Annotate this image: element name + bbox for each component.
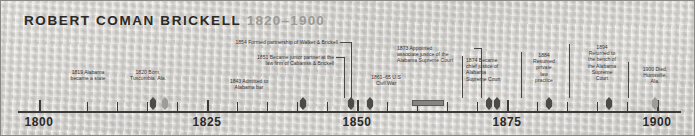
- page-title: ROBERT COMAN BRICKELL 1820–1900: [24, 13, 325, 28]
- event-marker-junior-partner: [348, 97, 355, 110]
- axis-tick-1855: [387, 102, 388, 111]
- event-label-civil-war: 1861–65 U.S Civil War: [360, 74, 412, 86]
- event-label-private-law-practice: 1884 Resumed private law practice: [524, 52, 564, 83]
- event-marker-private-law-practice: [546, 97, 553, 110]
- leader-line-partnership-vertical: [351, 42, 352, 98]
- axis-label-1900: 1900: [642, 115, 671, 129]
- event-label-alabama-statehood: 1819 Alabama became a state: [60, 69, 116, 81]
- axis-tick-1875: [507, 100, 509, 111]
- event-marker-admitted-to-bar: [300, 97, 307, 110]
- event-marker-alabama-statehood: [150, 97, 157, 110]
- event-label-admitted-to-bar: 1843 Admitted to Alabama bar: [213, 78, 285, 90]
- axis-label-1875: 1875: [492, 115, 521, 129]
- event-marker-associate-justice: [486, 97, 493, 110]
- axis-tick-1815: [147, 102, 148, 111]
- divider-line-private-practice: [521, 52, 522, 98]
- axis-tick-1845: [327, 102, 328, 111]
- event-label-chief-justice: 1874 Became chief justice of Alabama Sup…: [466, 57, 520, 82]
- leader-line-junior-partner-vertical: [344, 57, 345, 98]
- axis-label-1850: 1850: [342, 115, 371, 129]
- event-marker-partnership-walker-brickell: [367, 97, 374, 110]
- leader-line-associate-justice-vertical: [481, 48, 482, 98]
- axis-tick-1805: [87, 102, 88, 111]
- event-marker-born-tuscumbia: [162, 97, 169, 110]
- axis-tick-1800: [39, 100, 41, 111]
- title-life-years: 1820–1900: [247, 13, 325, 28]
- axis-tick-1865: [447, 102, 448, 111]
- timeline-axis: 1800 1825 1850 1875 1900: [0, 96, 695, 136]
- event-marker-returned-to-bench: [606, 97, 613, 110]
- axis-tick-1890: [597, 102, 598, 111]
- axis-tick-1870: [477, 102, 478, 111]
- axis-tick-1850: [357, 100, 359, 111]
- event-label-junior-partner: 1851 Became junior partner at the law fi…: [178, 54, 334, 66]
- axis-tick-1880: [537, 102, 538, 111]
- event-label-returned-to-bench: 1894 Returned to the bench of the Alabam…: [578, 44, 626, 81]
- title-subject-name: ROBERT COMAN BRICKELL: [24, 13, 241, 28]
- event-marker-chief-justice: [494, 97, 501, 110]
- axis-tick-1840: [297, 102, 298, 111]
- axis-tick-1825: [207, 100, 209, 111]
- event-label-partnership-walker-brickell: 1854 Formed partnership of Walker & Bric…: [188, 39, 338, 45]
- event-label-born-tuscumbia: 1820 Born, Tuscumbia, Ala.: [117, 69, 179, 81]
- axis-label-1800: 1800: [24, 115, 53, 129]
- divider-line-returned-bench: [569, 44, 570, 98]
- axis-label-1825: 1825: [192, 115, 221, 129]
- axis-tick-1810: [117, 102, 118, 111]
- axis-line: [18, 111, 681, 113]
- axis-tick-1830: [237, 102, 238, 111]
- event-marker-civil-war-span: [412, 100, 444, 106]
- divider-line-chief-justice: [462, 56, 463, 98]
- axis-tick-1835: [267, 102, 268, 111]
- timeline-figure: ROBERT COMAN BRICKELL 1820–1900 1819 Ala…: [0, 0, 695, 136]
- axis-tick-1885: [567, 102, 568, 111]
- axis-tick-1895: [627, 102, 628, 111]
- axis-tick-1820: [177, 102, 178, 111]
- event-label-died-huntsville: 1900 Died, Huntsville, Ala.: [634, 66, 676, 85]
- divider-line-died: [628, 62, 629, 98]
